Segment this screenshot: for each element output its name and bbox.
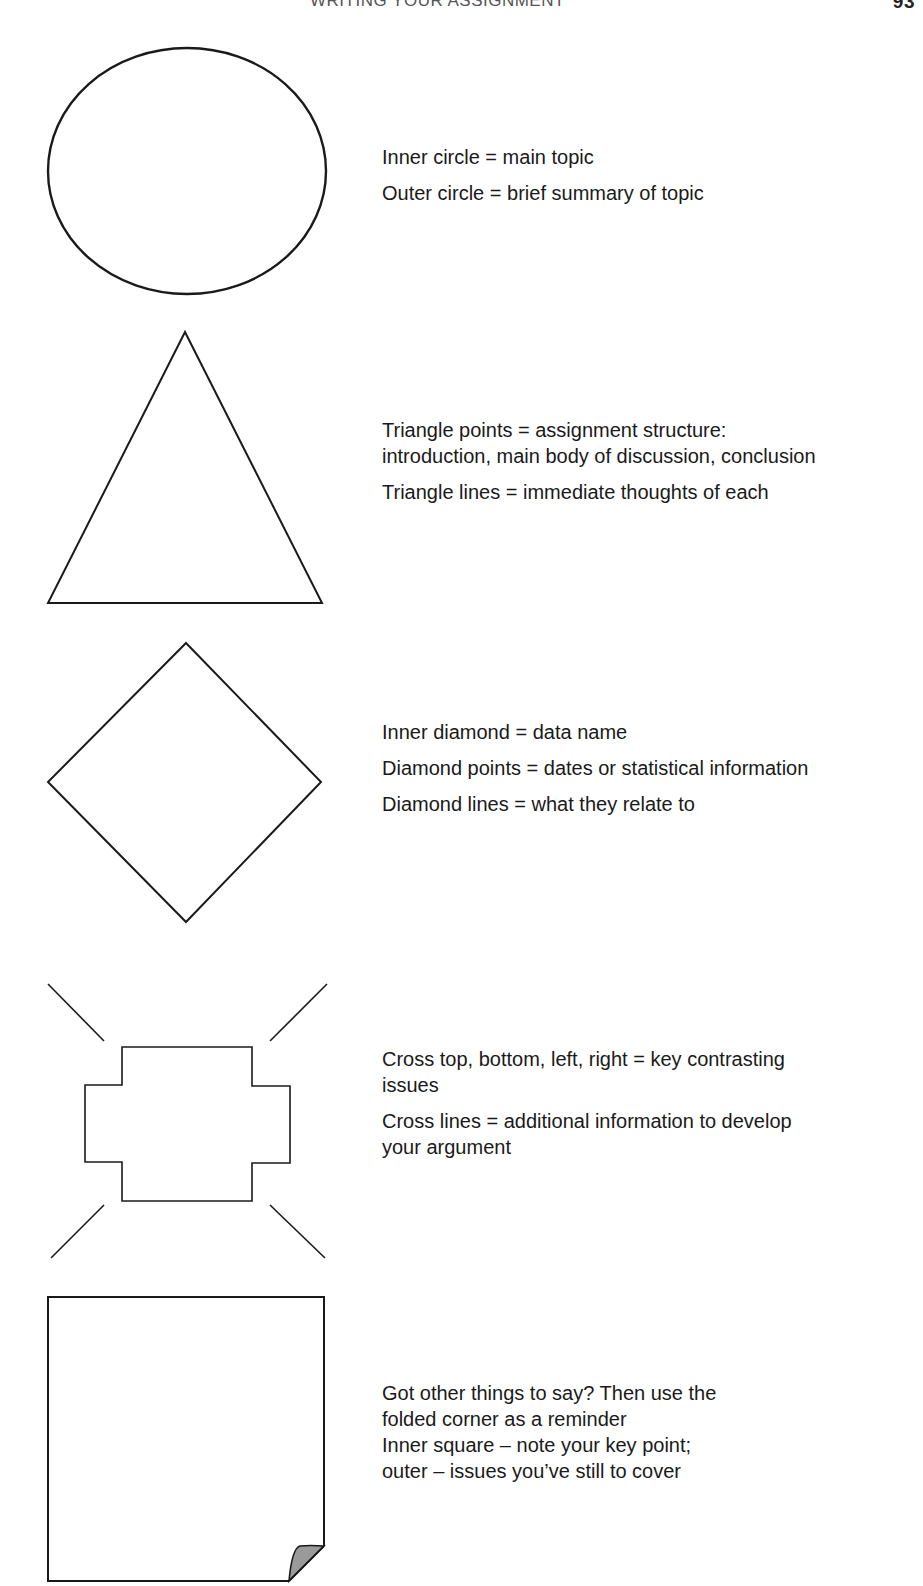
- caption-line: Inner square – note your key point;: [382, 1432, 716, 1458]
- caption-line: outer – issues you’ve still to cover: [382, 1458, 716, 1484]
- caption-line: Got other things to say? Then use the: [382, 1380, 716, 1406]
- caption-line: Outer circle = brief summary of topic: [382, 180, 704, 206]
- caption-line: Inner circle = main topic: [382, 144, 704, 170]
- circle-shape: [48, 48, 326, 294]
- caption-line: Diamond points = dates or statistical in…: [382, 755, 808, 781]
- triangle-shape: [48, 332, 322, 603]
- caption-line: Triangle lines = immediate thoughts of e…: [382, 479, 816, 505]
- cross-caption: Cross top, bottom, left, right = key con…: [382, 1046, 792, 1160]
- folded-square-shape: [48, 1297, 324, 1581]
- caption-line: Cross top, bottom, left, right = key con…: [382, 1046, 792, 1098]
- caption-line: Triangle points = assignment structure: …: [382, 417, 816, 469]
- cross-shape: [48, 984, 327, 1258]
- caption-line: Cross lines = additional information to …: [382, 1108, 792, 1160]
- caption-line: folded corner as a reminder: [382, 1406, 716, 1432]
- caption-line: Inner diamond = data name: [382, 719, 808, 745]
- circle-caption: Inner circle = main topic Outer circle =…: [382, 144, 704, 206]
- diamond-caption: Inner diamond = data name Diamond points…: [382, 719, 808, 817]
- caption-line: Diamond lines = what they relate to: [382, 791, 808, 817]
- diamond-shape: [48, 643, 321, 922]
- triangle-caption: Triangle points = assignment structure: …: [382, 417, 816, 505]
- folded-square-caption: Got other things to say? Then use the fo…: [382, 1380, 716, 1484]
